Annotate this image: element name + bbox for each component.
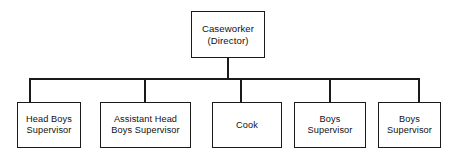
org-chart: Caseworker (Director) Head Boys Supervis… (0, 0, 458, 161)
connector-drop-boys-supervisor-1 (329, 78, 331, 103)
connector-horizontal-bus (29, 78, 420, 80)
org-node-label: Assistant Head Boys Supervisor (108, 114, 182, 136)
connector-drop-assistant-head-boys-supervisor (144, 78, 146, 103)
org-node-label: Cook (233, 120, 261, 131)
org-node-label: Boys Supervisor (305, 114, 356, 136)
org-node-boys-supervisor-2[interactable]: Boys Supervisor (378, 102, 441, 148)
connector-drop-boys-supervisor-2 (418, 78, 420, 103)
org-node-boys-supervisor-1[interactable]: Boys Supervisor (294, 102, 366, 148)
org-node-head-boys-supervisor[interactable]: Head Boys Supervisor (17, 102, 81, 148)
org-node-label: Boys Supervisor (384, 114, 435, 136)
connector-root-stem (227, 57, 229, 80)
org-node-cook[interactable]: Cook (212, 102, 282, 148)
connector-drop-cook (240, 78, 242, 103)
org-node-caseworker-director[interactable]: Caseworker (Director) (191, 11, 265, 58)
connector-drop-head-boys-supervisor (29, 78, 31, 103)
org-node-label: Head Boys Supervisor (23, 114, 75, 136)
org-node-label: Caseworker (Director) (199, 23, 257, 46)
org-node-assistant-head-boys-supervisor[interactable]: Assistant Head Boys Supervisor (100, 102, 191, 148)
